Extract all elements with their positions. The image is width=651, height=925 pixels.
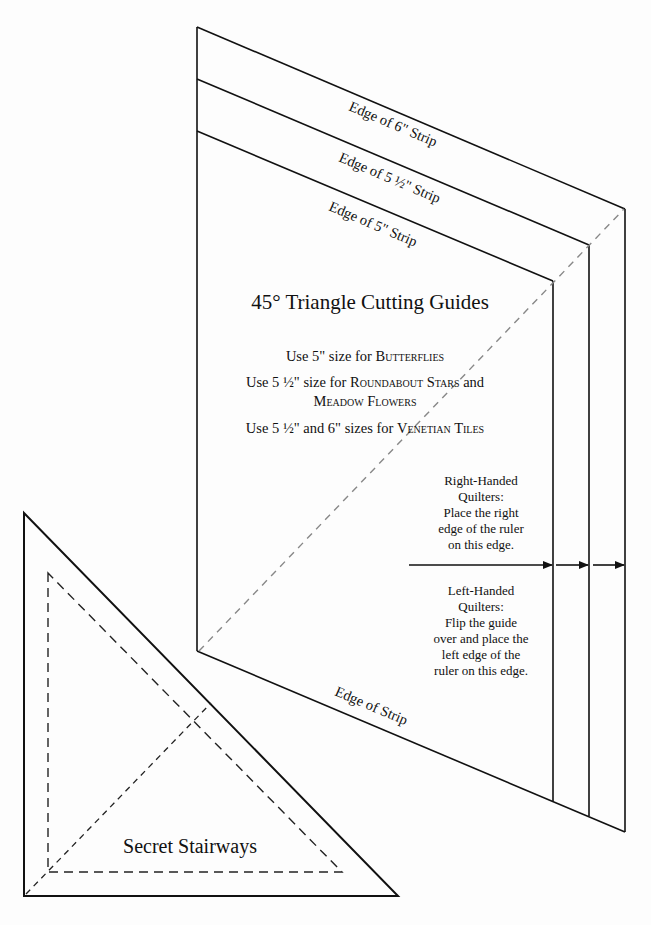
- note-line: on this edge.: [406, 537, 556, 553]
- pattern-name: Butterflies: [376, 348, 445, 364]
- pattern-page: Edge of 6" Strip Edge of 5 ½" Strip Edge…: [0, 0, 651, 925]
- diagram-lines: Edge of 6" Strip Edge of 5 ½" Strip Edge…: [0, 0, 651, 925]
- pattern-name: Venetian Tiles: [397, 420, 484, 436]
- note-heading: Quilters:: [406, 599, 556, 615]
- usage-line-venetian-tiles: Use 5 ½" and 6" sizes for Venetian Tiles: [200, 419, 530, 438]
- note-line: left edge of the: [406, 647, 556, 663]
- right-handed-instructions: Right-Handed Quilters: Place the right e…: [406, 473, 556, 553]
- guide-title: 45° Triangle Cutting Guides: [200, 290, 540, 315]
- note-line: Flip the guide: [406, 615, 556, 631]
- note-line: Place the right: [406, 505, 556, 521]
- triangle-seam-line: [48, 573, 342, 872]
- edge-5-strip-line: [197, 131, 553, 281]
- edge-5-half-strip-line: [197, 79, 589, 245]
- triangle-label: Secret Stairways: [100, 835, 280, 858]
- triangle-diagonal-dashed: [26, 703, 211, 894]
- pattern-name: Roundabout Stars: [350, 374, 459, 390]
- note-heading: Left-Handed: [406, 583, 556, 599]
- note-line: edge of the ruler: [406, 521, 556, 537]
- note-line: over and place the: [406, 631, 556, 647]
- usage-suffix: and: [460, 374, 485, 390]
- left-handed-instructions: Left-Handed Quilters: Flip the guide ove…: [406, 583, 556, 679]
- usage-prefix: Use 5 ½" size for: [246, 374, 350, 390]
- note-line: ruler on this edge.: [406, 663, 556, 679]
- usage-line-roundabout-stars: Use 5 ½" size for Roundabout Stars andMe…: [200, 373, 530, 411]
- usage-prefix: Use 5" size for: [286, 348, 376, 364]
- note-heading: Quilters:: [406, 489, 556, 505]
- note-heading: Right-Handed: [406, 473, 556, 489]
- label-edge-5-half-strip: Edge of 5 ½" Strip: [337, 149, 443, 206]
- pattern-name: Meadow Flowers: [314, 393, 417, 409]
- usage-prefix: Use 5 ½" and 6" sizes for: [246, 420, 397, 436]
- label-edge-of-strip: Edge of Strip: [333, 683, 410, 728]
- usage-line-butterflies: Use 5" size for Butterflies: [200, 347, 530, 366]
